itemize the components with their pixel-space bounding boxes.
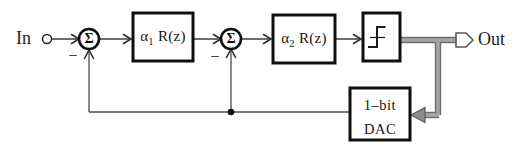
summer-1-minus-sign: − <box>68 48 77 64</box>
diagram-canvas <box>0 0 525 152</box>
transfer-function: R(z) <box>299 30 327 46</box>
input-port-icon <box>43 35 52 44</box>
input-label: In <box>16 29 31 47</box>
summer-2-sigma: Σ <box>226 32 235 46</box>
dac-input-arrowhead-icon <box>411 108 425 123</box>
transfer-function: R(z) <box>158 28 186 44</box>
alpha-subscript: 1 <box>148 36 154 47</box>
output-port-icon <box>456 33 473 47</box>
filter-block-2-label: α2 R(z) <box>281 31 327 49</box>
dac-label-line2: DAC <box>364 122 396 137</box>
summer-1-sigma: Σ <box>84 32 93 46</box>
summer-2-minus-sign: − <box>210 49 219 65</box>
filter-block-1-label: α1 R(z) <box>140 29 186 47</box>
feedback-junction-dot <box>228 109 235 116</box>
alpha-subscript: 2 <box>289 38 295 49</box>
alpha-symbol: α <box>140 28 148 44</box>
output-label: Out <box>478 30 505 48</box>
sigma-delta-modulator-diagram: In Σ − Σ − α1 R(z) α2 R(z) 1–bit DAC Out <box>0 0 525 152</box>
dac-label-line1: 1–bit <box>364 98 396 113</box>
alpha-symbol: α <box>281 30 289 46</box>
